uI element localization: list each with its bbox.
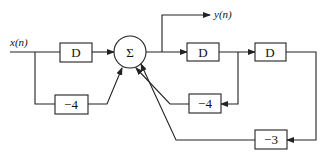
delay-2-label: D bbox=[265, 45, 274, 60]
gain-feedback-2-label: −3 bbox=[264, 132, 278, 147]
branch-to-gain-input bbox=[35, 52, 55, 104]
input-label: x(n) bbox=[9, 36, 28, 49]
gain-feedback-1-label: −4 bbox=[198, 96, 212, 111]
block-diagram: x(n) D −4 Σ y(n) D −4 D −3 bbox=[0, 0, 323, 162]
branch-to-feedback-2 bbox=[286, 52, 316, 140]
arrow-feedback-1-to-sum bbox=[136, 68, 189, 104]
delay-input-label: D bbox=[71, 45, 80, 60]
arrow-gain-input-to-sum bbox=[88, 68, 122, 104]
output-label: y(n) bbox=[213, 8, 232, 21]
branch-to-feedback-1 bbox=[221, 52, 238, 104]
sum-symbol: Σ bbox=[126, 45, 134, 60]
gain-input-label: −4 bbox=[64, 97, 78, 112]
delay-1-label: D bbox=[198, 45, 207, 60]
